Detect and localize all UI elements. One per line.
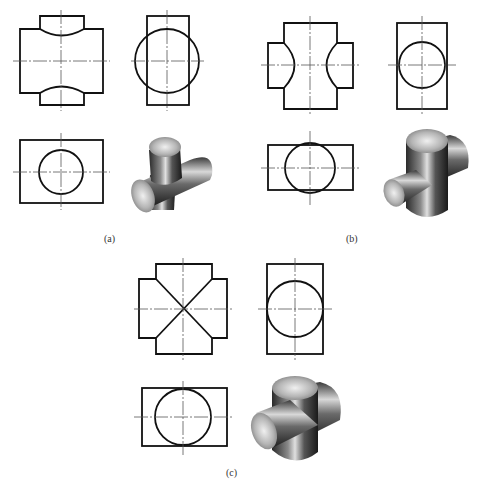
panel-c-top-view bbox=[134, 381, 232, 455]
panel-a-front-view bbox=[13, 10, 110, 111]
panel-c-side-view bbox=[258, 258, 332, 360]
panel-c-front-view bbox=[134, 258, 232, 360]
panel-a-side-view bbox=[131, 10, 204, 111]
panel-a-top-view bbox=[13, 133, 110, 210]
panel-a bbox=[13, 10, 212, 216]
panel-c bbox=[134, 258, 341, 461]
panel-c-isometric-render bbox=[246, 376, 341, 461]
panel-a-isometric-render bbox=[127, 137, 212, 216]
panel-b bbox=[261, 16, 469, 217]
panel-b-front-view bbox=[261, 16, 360, 116]
caption-c: (c) bbox=[226, 467, 237, 478]
panel-b-top-view bbox=[261, 131, 360, 205]
technical-drawing bbox=[0, 0, 489, 492]
panel-b-isometric-render bbox=[380, 129, 469, 217]
caption-a: (a) bbox=[104, 233, 115, 244]
caption-b: (b) bbox=[346, 233, 358, 244]
panel-b-side-view bbox=[388, 16, 456, 116]
